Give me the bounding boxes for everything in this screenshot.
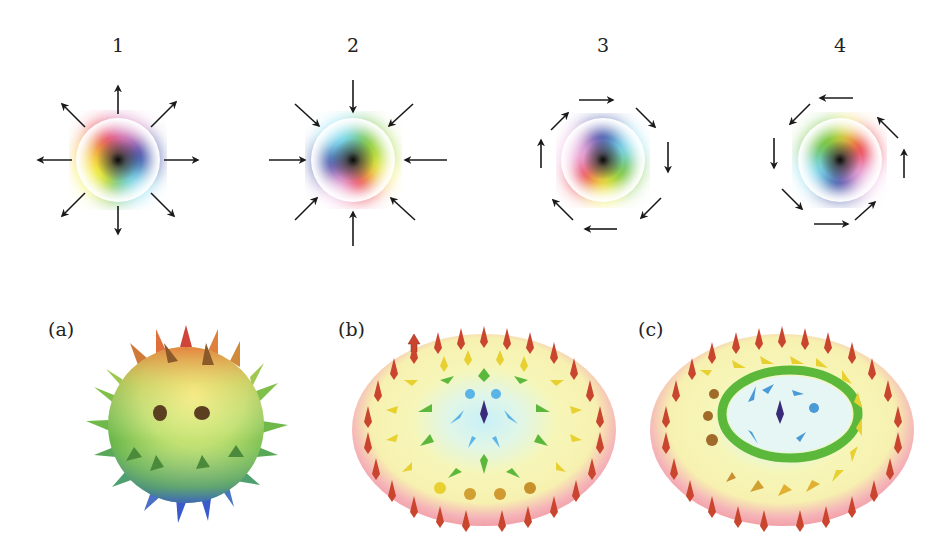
panel-b-neel-disk [352, 326, 616, 532]
figure-canvas [0, 0, 950, 541]
panel-1-hedgehog [38, 86, 198, 234]
panel-3-vortex [541, 100, 668, 229]
panel-a-sphere [86, 325, 288, 523]
panel-2-hedgehog [269, 80, 447, 246]
panel-4-vortex [774, 98, 904, 224]
panel-c-bloch-disk [650, 326, 914, 532]
